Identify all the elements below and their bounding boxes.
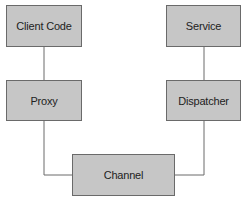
node-dispatcher: Dispatcher [166, 80, 241, 121]
node-proxy: Proxy [6, 80, 82, 121]
node-channel: Channel [72, 154, 175, 196]
edge-channel-dispatcher [175, 121, 204, 175]
node-label: Client Code [16, 20, 71, 32]
node-client-code: Client Code [6, 5, 82, 47]
node-label: Dispatcher [178, 95, 229, 107]
node-label: Channel [104, 169, 144, 181]
node-label: Proxy [30, 95, 57, 107]
edge-proxy-channel [44, 121, 72, 175]
node-label: Service [186, 20, 221, 32]
node-service: Service [166, 5, 241, 47]
